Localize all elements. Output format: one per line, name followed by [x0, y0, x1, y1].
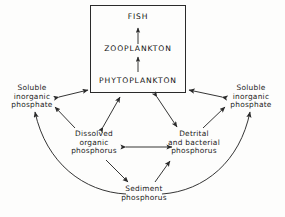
- arrow-soluble-left-to-box: [59, 90, 88, 97]
- fish-label: FISH: [90, 12, 186, 21]
- arrow-dissolved-organic-to-box: [103, 97, 120, 127]
- zooplankton-label: ZOOPLANKTON: [90, 44, 186, 53]
- node-detrital-and-bacterial-phosphorus: Detrital and bacterial phosphorus: [159, 130, 229, 156]
- node-soluble-inorganic-phosphate-left: Soluble inorganic phosphate: [4, 84, 60, 110]
- arrow-detrital-to-soluble-right: [203, 107, 225, 128]
- phosphorus-cycle-diagram: FISH ZOOPLANKTON PHYTOPLANKTON Soluble i…: [0, 0, 285, 217]
- arrow-sediment-to-detrital: [155, 161, 170, 182]
- arrow-soluble-right-to-box: [189, 90, 222, 97]
- node-dissolved-organic-phosphorus: Dissolved organic phosphorus: [63, 130, 125, 156]
- arrow-box-to-detrital: [157, 97, 177, 127]
- arrow-dissolved-organic-to-sediment: [106, 160, 128, 182]
- node-soluble-inorganic-phosphate-right: Soluble inorganic phosphate: [222, 84, 280, 110]
- node-sediment-phosphorus: Sediment phosphorus: [113, 185, 175, 202]
- arrow-dissolved-organic-to-soluble-left: [55, 107, 75, 128]
- phytoplankton-label: PHYTOPLANKTON: [90, 76, 186, 85]
